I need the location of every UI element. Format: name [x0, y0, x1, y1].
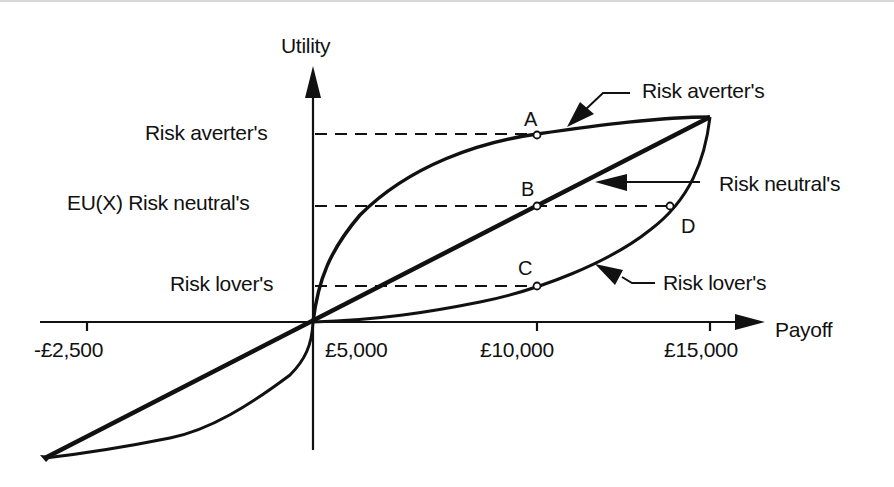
arrow-lover-head-icon	[595, 264, 623, 285]
points	[534, 132, 674, 290]
x-axis-label: Payoff	[775, 318, 832, 342]
arrow-neutral-head-icon	[595, 174, 627, 191]
x-axis-arrow-icon	[735, 314, 765, 330]
point-b-marker	[534, 203, 541, 210]
point-a-marker	[534, 132, 541, 139]
point-b-label: B	[521, 178, 534, 201]
y-axis-label: Utility	[281, 34, 330, 58]
curve-label-averter: Risk averter's	[642, 79, 764, 103]
y-axis-arrow-icon	[305, 66, 321, 98]
level-label-neutral: EU(X) Risk neutral's	[67, 191, 249, 215]
level-lines	[315, 134, 670, 286]
point-c-label: C	[518, 257, 532, 280]
curve-label-lover: Risk lover's	[663, 271, 766, 295]
point-d-marker	[667, 203, 674, 210]
axes	[40, 95, 740, 450]
tick-label-neg2500: -£2,500	[34, 338, 103, 362]
utility-chart	[0, 0, 894, 487]
tick-label-5000: £5,000	[325, 338, 387, 362]
point-a-label: A	[524, 108, 537, 131]
curve-risk-neutral	[45, 117, 710, 458]
level-label-lover: Risk lover's	[170, 272, 273, 296]
tick-label-10000: £10,000	[480, 338, 554, 362]
level-label-averter: Risk averter's	[145, 121, 267, 145]
curve-label-neutral: Risk neutral's	[719, 172, 840, 196]
arrow-averter-line	[585, 93, 630, 110]
tick-label-15000: £15,000	[664, 338, 738, 362]
point-c-marker	[534, 283, 541, 290]
arrow-lover-line	[622, 277, 655, 283]
point-d-label: D	[681, 215, 695, 238]
